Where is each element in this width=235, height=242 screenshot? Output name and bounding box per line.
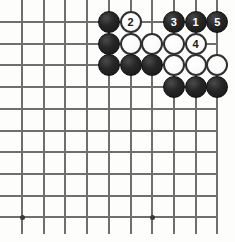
stone-black[interactable]: [98, 11, 120, 33]
stone-black[interactable]: [98, 54, 120, 76]
stone-black[interactable]: [185, 76, 207, 98]
go-board[interactable]: 23154: [0, 0, 235, 242]
go-diagram: 23154: [0, 0, 235, 242]
board-vertical-line: [64, 0, 66, 234]
stone-white[interactable]: [141, 33, 163, 55]
stone-white-move-4[interactable]: 4: [185, 33, 207, 55]
stone-black[interactable]: [120, 54, 142, 76]
stone-black[interactable]: [98, 33, 120, 55]
stone-black[interactable]: [163, 76, 185, 98]
stone-white-move-2[interactable]: 2: [120, 11, 142, 33]
move-number-label: 2: [122, 13, 140, 31]
board-vertical-line: [21, 0, 23, 234]
stone-black-move-1[interactable]: 1: [185, 11, 207, 33]
board-vertical-line: [216, 0, 218, 234]
stone-black[interactable]: [206, 76, 228, 98]
stone-white[interactable]: [163, 33, 185, 55]
board-vertical-line: [43, 0, 45, 234]
stone-white[interactable]: [185, 54, 207, 76]
move-number-label: 1: [186, 12, 206, 33]
stone-black[interactable]: [141, 54, 163, 76]
stone-white[interactable]: [120, 33, 142, 55]
board-vertical-line: [86, 0, 88, 234]
star-point: [20, 215, 25, 220]
move-number-label: 5: [207, 12, 227, 33]
stone-white[interactable]: [206, 54, 228, 76]
star-point: [150, 215, 155, 220]
move-number-label: 3: [164, 12, 184, 33]
stone-black-move-3[interactable]: 3: [163, 11, 185, 33]
stone-black-move-5[interactable]: 5: [206, 11, 228, 33]
stone-white[interactable]: [163, 54, 185, 76]
move-number-label: 4: [187, 35, 205, 53]
